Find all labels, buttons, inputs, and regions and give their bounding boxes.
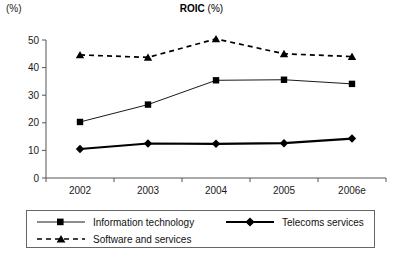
legend-label: Telecoms services [282,217,364,228]
legend-label: Software and services [93,234,191,245]
y-axis-tick-label: 40 [28,62,40,73]
x-axis-tick-label: 2005 [273,185,296,196]
chart-container: (%) ROIC (%) 01020304050 200220032004200… [0,0,403,257]
chart-legend: Information technology Telecoms services… [26,210,375,248]
data-point-marker [280,139,288,147]
legend-item-telecoms-services: Telecoms services [224,215,364,229]
y-axis-tick-label: 0 [33,173,39,184]
data-point-marker [212,35,220,42]
legend-item-information-technology: Information technology [35,215,194,229]
data-point-marker [348,134,356,142]
data-point-marker [349,81,355,87]
plot-area: 01020304050 20022003200420052006e [0,0,403,210]
data-point-marker [281,77,287,83]
legend-sample-diamond-line [224,216,276,228]
y-axis-ticks: 01020304050 [28,35,46,184]
y-axis-tick-label: 50 [28,35,40,46]
series-software-and-services [76,35,356,61]
data-series-layer [76,35,356,153]
data-point-marker [76,145,84,153]
y-axis-tick-label: 30 [28,90,40,101]
y-axis-tick-label: 10 [28,145,40,156]
x-axis-tick-label: 2003 [137,185,160,196]
y-axis-tick-label: 20 [28,117,40,128]
data-point-marker [212,140,220,148]
legend-item-software-and-services: Software and services [35,232,191,246]
series-information-technology [77,77,355,126]
legend-sample-triangle-dashed [35,233,87,245]
x-axis-tick-label: 2006e [338,185,366,196]
data-point-marker [144,139,152,147]
data-point-marker [77,119,83,125]
series-line [80,80,352,122]
x-axis-ticks: 20022003200420052006e [46,178,386,196]
data-point-marker [145,101,151,107]
data-point-marker [213,77,219,83]
x-axis-tick-label: 2004 [205,185,228,196]
series-telecoms-services [76,134,356,153]
legend-sample-square-line [35,216,87,228]
legend-label: Information technology [93,217,194,228]
x-axis-tick-label: 2002 [69,185,92,196]
